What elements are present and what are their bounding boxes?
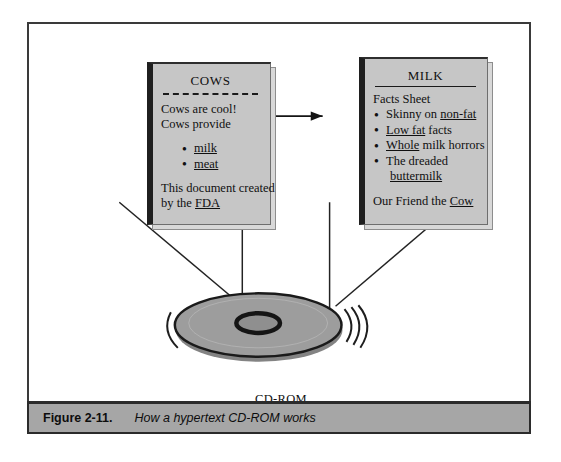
card-title-cows: COWS [161, 74, 260, 88]
spacer [373, 185, 478, 194]
figure-caption-label: Figure 2-11. [43, 411, 112, 425]
card-divider-dashed [163, 93, 258, 95]
hyperlink-cow[interactable]: Cow [450, 194, 474, 208]
list-item[interactable]: milk [181, 141, 260, 157]
bullet-text-prefix: Skinny on [386, 107, 440, 121]
cd-rom-disc-icon [167, 293, 367, 361]
hyperlink-buttermilk[interactable]: buttermilk [386, 169, 478, 185]
list-item[interactable]: Skinny on non-fat [373, 107, 478, 123]
document-card-milk[interactable]: MILK Facts Sheet Skinny on non-fat Low f… [359, 57, 488, 225]
card-footer-line: Our Friend the Cow [373, 194, 478, 209]
list-item[interactable]: The dreaded buttermilk [373, 154, 478, 185]
card-title-milk: MILK [373, 69, 478, 83]
card-divider-solid [375, 86, 476, 87]
card-footer-line2: by the FDA [161, 196, 260, 211]
hyperlink-fda[interactable]: FDA [195, 196, 220, 210]
card-footer-prefix: Our Friend the [373, 194, 450, 208]
figure-caption-bar: Figure 2-11. How a hypertext CD-ROM work… [27, 401, 531, 434]
document-card-cows[interactable]: COWS Cows are cool! Cows provide milk me… [147, 62, 271, 225]
card-footer-line1: This document created [161, 181, 260, 196]
bullet-text-suffix: milk horrors [419, 138, 484, 152]
hyperlink-non-fat[interactable]: non-fat [440, 107, 476, 121]
hyperlink-low-fat[interactable]: Low fat [386, 123, 425, 137]
spacer [161, 172, 260, 181]
list-item[interactable]: Low fat facts [373, 123, 478, 139]
hyperlink-meat[interactable]: meat [194, 157, 218, 171]
hyperlink-milk[interactable]: milk [194, 141, 217, 155]
spacer [161, 132, 260, 141]
hyperlink-list-milk: Skinny on non-fat Low fat facts Whole mi… [373, 107, 478, 185]
list-item[interactable]: meat [181, 157, 260, 173]
hyperlink-list-cows: milk meat [161, 141, 260, 172]
card-text-line: Cows provide [161, 117, 260, 132]
card-text-line: Cows are cool! [161, 102, 260, 117]
list-item[interactable]: Whole milk horrors [373, 138, 478, 154]
bullet-text-prefix: The dreaded [386, 154, 448, 168]
figure-caption-text: How a hypertext CD-ROM works [134, 411, 315, 425]
card-footer-prefix: by the [161, 196, 195, 210]
hyperlink-whole[interactable]: Whole [386, 138, 419, 152]
figure-frame: COWS Cows are cool! Cows provide milk me… [27, 22, 531, 434]
bullet-text-suffix: facts [425, 123, 452, 137]
card-text-line: Facts Sheet [373, 92, 478, 107]
